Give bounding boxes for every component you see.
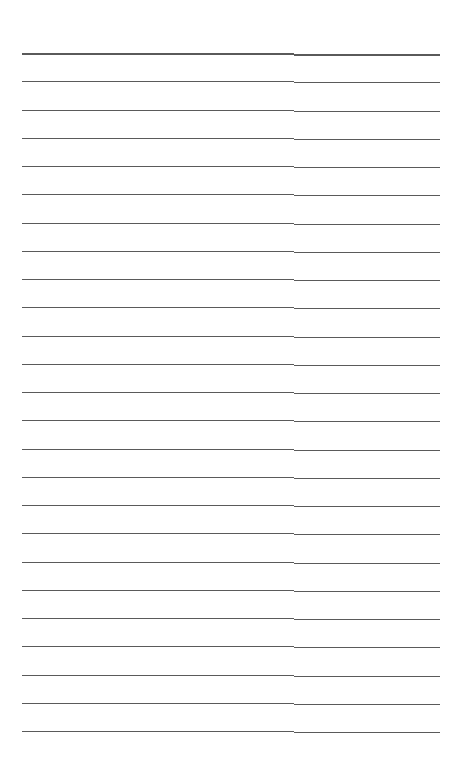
ruled-line	[0, 307, 458, 308]
ruled-line	[0, 590, 458, 591]
ruled-line-left-segment	[22, 675, 294, 676]
ruled-line-left-segment	[22, 562, 294, 563]
ruled-line	[0, 392, 458, 393]
ruled-line	[0, 53, 458, 54]
ruled-line	[0, 81, 458, 82]
ruled-line-right-segment	[294, 195, 440, 196]
ruled-line-right-segment	[294, 676, 440, 677]
ruled-line-left-segment	[22, 731, 294, 732]
ruled-line-left-segment	[22, 590, 294, 591]
ruled-line-right-segment	[294, 111, 440, 112]
ruled-line-right-segment	[294, 591, 440, 592]
ruled-line	[0, 364, 458, 365]
ruled-line-left-segment	[22, 420, 294, 421]
ruled-line-left-segment	[22, 477, 294, 478]
ruled-line-left-segment	[22, 646, 294, 647]
ruled-line-left-segment	[22, 166, 294, 167]
ruled-line-right-segment	[294, 647, 440, 648]
ruled-line	[0, 505, 458, 506]
ruled-line-right-segment	[294, 563, 440, 564]
ruled-line-left-segment	[22, 279, 294, 280]
ruled-line-right-segment	[294, 506, 440, 507]
ruled-line	[0, 110, 458, 111]
ruled-line-left-segment	[22, 533, 294, 534]
ruled-line-right-segment	[294, 534, 440, 535]
ruled-line	[0, 618, 458, 619]
ruled-line-right-segment	[294, 450, 440, 451]
ruled-line	[0, 138, 458, 139]
ruled-line	[0, 533, 458, 534]
ruled-line	[0, 420, 458, 421]
ruled-line-left-segment	[22, 449, 294, 450]
ruled-sheet	[0, 0, 458, 769]
ruled-line-right-segment	[294, 54, 440, 56]
ruled-line-left-segment	[22, 307, 294, 308]
ruled-line-right-segment	[294, 252, 440, 253]
ruled-line	[0, 477, 458, 478]
ruled-line	[0, 675, 458, 676]
ruled-line-left-segment	[22, 81, 294, 82]
ruled-line-left-segment	[22, 251, 294, 252]
ruled-line-right-segment	[294, 224, 440, 225]
ruled-line-right-segment	[294, 280, 440, 281]
ruled-line	[0, 223, 458, 224]
ruled-line-left-segment	[22, 703, 294, 704]
ruled-line	[0, 449, 458, 450]
ruled-line	[0, 646, 458, 647]
ruled-line-right-segment	[294, 308, 440, 309]
ruled-line-right-segment	[294, 704, 440, 705]
ruled-line	[0, 279, 458, 280]
ruled-line-right-segment	[294, 619, 440, 620]
ruled-line-right-segment	[294, 82, 440, 83]
ruled-line-right-segment	[294, 167, 440, 168]
ruled-line	[0, 194, 458, 195]
ruled-line	[0, 166, 458, 167]
ruled-line-left-segment	[22, 223, 294, 224]
ruled-line-right-segment	[294, 421, 440, 422]
ruled-line	[0, 562, 458, 563]
ruled-line	[0, 703, 458, 704]
ruled-line	[0, 251, 458, 252]
ruled-line-left-segment	[22, 110, 294, 111]
ruled-line-left-segment	[22, 392, 294, 393]
ruled-line-left-segment	[22, 138, 294, 139]
ruled-line-left-segment	[22, 194, 294, 195]
ruled-line-left-segment	[22, 618, 294, 619]
ruled-line-right-segment	[294, 337, 440, 338]
ruled-line-left-segment	[22, 364, 294, 365]
ruled-line-left-segment	[22, 336, 294, 337]
ruled-line-left-segment	[22, 53, 294, 55]
ruled-line-right-segment	[294, 732, 440, 733]
ruled-line	[0, 731, 458, 732]
ruled-line-left-segment	[22, 505, 294, 506]
ruled-line-right-segment	[294, 478, 440, 479]
ruled-line-right-segment	[294, 365, 440, 366]
ruled-line-right-segment	[294, 393, 440, 394]
ruled-line	[0, 336, 458, 337]
ruled-line-right-segment	[294, 139, 440, 140]
